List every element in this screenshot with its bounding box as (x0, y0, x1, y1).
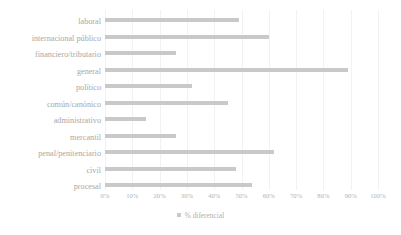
bar (105, 183, 252, 187)
category-label: común/canónico (47, 97, 101, 113)
legend-label: % diferencial (185, 211, 225, 220)
bar-row (105, 146, 378, 162)
tick-label: 30% (172, 191, 202, 201)
tick-label: 0% (90, 191, 120, 201)
category-label: penal/penitenciario (38, 146, 101, 162)
category-label: internacional público (32, 31, 101, 47)
bar-row (105, 113, 378, 129)
bar-row (105, 163, 378, 179)
category-label: financiero/tributario (35, 47, 101, 63)
legend-swatch-icon (177, 213, 181, 217)
tick-label: 10% (117, 191, 147, 201)
plot-area (105, 10, 378, 190)
bar (105, 117, 146, 121)
category-label: general (77, 64, 101, 80)
tick-label: 40% (199, 191, 229, 201)
bar (105, 167, 236, 171)
category-label: laboral (78, 14, 101, 30)
value-axis: 0%10%20%30%40%50%60%70%80%90%100% (105, 191, 378, 205)
tick-label: 60% (254, 191, 284, 201)
category-label: civil (86, 163, 101, 179)
bar-row (105, 31, 378, 47)
bar (105, 68, 348, 72)
tick-label: 80% (308, 191, 338, 201)
category-label: político (76, 80, 101, 96)
tick-label: 90% (336, 191, 366, 201)
bar (105, 84, 192, 88)
bar (105, 18, 239, 22)
bar-chart: laboralinternacional públicofinanciero/t… (0, 0, 401, 235)
tick-label: 20% (145, 191, 175, 201)
bar-row (105, 130, 378, 146)
bar (105, 51, 176, 55)
bar (105, 101, 228, 105)
gridline (378, 10, 379, 190)
tick-label: 50% (227, 191, 257, 201)
bar-row (105, 64, 378, 80)
category-axis: laboralinternacional públicofinanciero/t… (0, 10, 101, 190)
bar-row (105, 14, 378, 30)
tick-label: 100% (363, 191, 393, 201)
bar (105, 150, 274, 154)
bar (105, 35, 269, 39)
bar-row (105, 47, 378, 63)
bar-row (105, 97, 378, 113)
tick-label: 70% (281, 191, 311, 201)
category-label: administrativo (54, 113, 101, 129)
chart-legend: % diferencial (0, 210, 401, 220)
bar (105, 134, 176, 138)
bar-row (105, 80, 378, 96)
category-label: mercantil (70, 130, 101, 146)
